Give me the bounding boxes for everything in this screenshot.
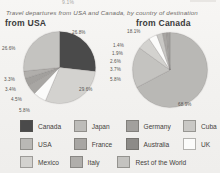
legend-label-usa: USA (38, 141, 52, 148)
legend-label-mexico: Mexico (38, 159, 59, 166)
chart-heading-usa: from USA (5, 18, 46, 28)
legend-item-rest-of-the-world[interactable]: Rest of the World (117, 156, 220, 168)
pie-canada-label-cuba: 2.6% (110, 59, 121, 64)
pie-canada-label-rest: 18.1% (127, 29, 141, 34)
legend-item-usa[interactable]: USA (20, 138, 74, 150)
pie-usa-svg (23, 31, 96, 104)
pie-chart-usa: 26.8% 29.6% 5.8% 4.5% 3.4% 3.3% 26.6% (0, 29, 110, 117)
pie-usa-label-france: 4.5% (11, 97, 22, 102)
pie-canada-label-france: 1.9% (112, 51, 123, 56)
legend-swatch-uk (183, 138, 196, 150)
top-clipped-mark (190, 0, 216, 2)
legend: Canada Japan Germany Cuba USA Fran (20, 117, 220, 173)
legend-label-australia: Australia (144, 141, 170, 148)
pie-usa-label-italy: 3.3% (4, 77, 15, 82)
figure-subtitle: Travel departures from USA and Canada, b… (6, 9, 198, 16)
top-clipped-percentage: 9.1% (62, 0, 74, 5)
legend-swatch-japan (74, 120, 87, 132)
legend-swatch-rest-of-the-world (117, 156, 130, 168)
pie-usa-graphic (23, 31, 96, 104)
legend-swatch-usa (20, 138, 33, 150)
legend-swatch-italy (70, 156, 83, 168)
legend-label-japan: Japan (92, 123, 110, 130)
legend-item-australia[interactable]: Australia (126, 138, 183, 150)
legend-item-japan[interactable]: Japan (74, 120, 126, 132)
pie-canada-label-mexico: 5.8% (110, 77, 121, 82)
legend-item-italy[interactable]: Italy (70, 156, 118, 168)
legend-swatch-mexico (20, 156, 33, 168)
pie-slice-canada (60, 31, 96, 71)
legend-row: Mexico Italy Rest of the World (20, 153, 220, 171)
legend-label-france: France (92, 141, 113, 148)
pie-canada-label-uk: 3.7% (110, 67, 121, 72)
pie-usa-label-rest: 26.6% (2, 46, 16, 51)
legend-item-france[interactable]: France (74, 138, 126, 150)
chart-heading-canada: from Canada (136, 18, 191, 28)
legend-item-canada[interactable]: Canada (20, 120, 74, 132)
legend-row: Canada Japan Germany Cuba (20, 117, 220, 135)
legend-swatch-france (74, 138, 87, 150)
legend-label-uk: UK (201, 141, 210, 148)
legend-label-cuba: Cuba (201, 123, 217, 130)
legend-label-canada: Canada (38, 123, 61, 130)
pie-usa-label-canada: 26.8% (72, 30, 86, 35)
pie-chart-canada: 18.1% 68.9% 5.8% 3.7% 2.6% 1.9% 1.4% (110, 29, 220, 117)
pie-canada-label-usa: 68.9% (178, 102, 192, 107)
pie-slice-rest-of-the-world (23, 31, 59, 71)
pie-usa-label-germany: 3.4% (5, 87, 16, 92)
legend-swatch-germany (126, 120, 139, 132)
figure-container: 9.1% Travel departures from USA and Cana… (0, 0, 220, 173)
legend-row: USA France Australia UK (20, 135, 220, 153)
legend-swatch-cuba (183, 120, 196, 132)
legend-swatch-canada (20, 120, 33, 132)
legend-label-italy: Italy (88, 159, 100, 166)
legend-item-cuba[interactable]: Cuba (183, 120, 220, 132)
pie-canada-graphic (132, 32, 208, 108)
legend-item-uk[interactable]: UK (183, 138, 220, 150)
pie-usa-label-mexico: 29.6% (79, 87, 93, 92)
pie-canada-svg (132, 32, 208, 108)
legend-label-rest-of-the-world: Rest of the World (135, 159, 186, 166)
legend-swatch-australia (126, 138, 139, 150)
pie-usa-label-uk: 5.8% (19, 108, 30, 113)
legend-item-germany[interactable]: Germany (126, 120, 183, 132)
pie-canada-label-germany: 1.4% (113, 43, 124, 48)
legend-label-germany: Germany (144, 123, 171, 130)
legend-item-mexico[interactable]: Mexico (20, 156, 70, 168)
